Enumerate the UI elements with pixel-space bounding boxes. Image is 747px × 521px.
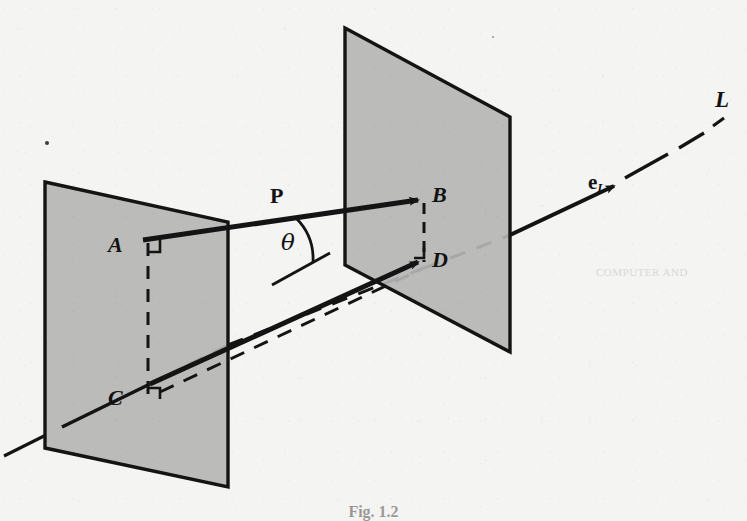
label-point-A: A <box>108 234 123 256</box>
line-L-tail-dash <box>4 435 46 456</box>
label-point-C: C <box>108 387 123 409</box>
bleed-through-text: COMPUTER AND <box>596 267 688 278</box>
right-plane-fill <box>345 28 510 352</box>
left-plane-fill <box>45 182 228 487</box>
angle-base-ray <box>272 253 330 285</box>
label-line-L: L <box>715 88 729 111</box>
label-point-D: D <box>432 249 448 271</box>
angle-arc-theta <box>296 218 313 262</box>
label-unit-vector-e-subscript: L <box>597 180 605 195</box>
figure-caption: Fig. 1.2 <box>0 503 747 521</box>
line-L-upper-dash-2 <box>679 133 704 148</box>
ink-speck <box>45 141 49 145</box>
label-unit-vector-e-base: e <box>588 170 597 194</box>
line-L-upper-dash-3 <box>713 118 724 126</box>
label-vector-P: P <box>270 185 283 207</box>
label-point-B: B <box>432 184 447 206</box>
right-plane <box>345 28 510 352</box>
line-L-upper-dash-1 <box>625 154 668 178</box>
label-angle-theta: θ <box>281 231 295 254</box>
left-plane <box>45 182 228 487</box>
label-unit-vector-eL: eL <box>588 172 605 194</box>
ink-speck <box>492 36 494 38</box>
